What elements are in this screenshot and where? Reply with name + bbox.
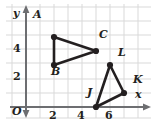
y-tick-label-2: 2: [13, 71, 21, 82]
point-label-k: K: [133, 74, 143, 85]
y-axis-label: y: [13, 8, 19, 19]
point-label-b: B: [51, 66, 60, 77]
x-axis-label: x: [135, 89, 142, 100]
origin-label: O: [12, 106, 22, 117]
point-label-a: A: [33, 9, 42, 20]
vertex-a: [51, 34, 57, 40]
coordinate-plane-figure: y x O 2 4 6 2 4 A B C L K J: [0, 0, 157, 126]
point-label-j: J: [87, 87, 92, 98]
x-tick-label-2: 2: [49, 110, 57, 121]
x-tick-label-6: 6: [105, 110, 113, 121]
point-label-l: L: [118, 47, 126, 58]
vertex-k: [121, 90, 127, 96]
vertex-j: [93, 104, 99, 110]
vertex-l: [107, 62, 113, 68]
vertex-c: [93, 48, 99, 54]
point-label-c: C: [99, 29, 108, 40]
plot-canvas: [0, 0, 157, 126]
y-tick-label-4: 4: [13, 43, 21, 54]
x-tick-label-4: 4: [77, 110, 85, 121]
